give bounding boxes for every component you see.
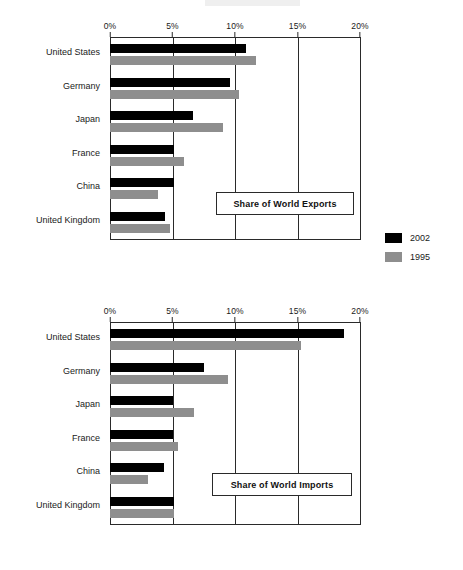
bar-exports-2002-4 [110,178,174,187]
category-labels-exports: United StatesGermanyJapanFranceChinaUnit… [0,38,106,239]
bar-imports-1995-4 [110,475,148,484]
category-label-exports-0: United States [46,47,100,57]
chart-title-imports: Share of World Imports [212,473,352,496]
bar-exports-1995-3 [110,157,184,166]
x-tick-imports-4: 20% [351,307,368,322]
category-label-exports-4: China [76,181,100,191]
bar-imports-1995-5 [110,509,174,518]
bar-imports-1995-1 [110,375,228,384]
bar-imports-1995-3 [110,442,178,451]
bar-exports-1995-5 [110,224,170,233]
x-tick-label: 0% [104,22,117,31]
x-tick-exports-0: 0% [104,22,117,37]
category-label-imports-5: United Kingdom [36,500,100,510]
legend-swatch-1995 [385,252,402,262]
chart-exports: 0%5%10%15%20% United StatesGermanyJapanF… [0,0,463,285]
x-tick-label: 20% [351,307,368,316]
category-label-exports-2: Japan [75,114,100,124]
x-axis-ticks-exports: 0%5%10%15%20% [110,22,362,38]
category-label-imports-4: China [76,466,100,476]
x-tick-imports-1: 5% [166,307,179,322]
bar-exports-2002-2 [110,111,193,120]
bar-imports-2002-3 [110,430,173,439]
category-label-exports-5: United Kingdom [36,215,100,225]
bar-group-imports-0 [110,323,360,357]
bar-exports-2002-5 [110,212,165,221]
bar-imports-2002-0 [110,329,344,338]
legend-swatch-2002 [385,233,402,243]
bar-exports-1995-0 [110,56,256,65]
legend-exports: 20021995 [385,228,455,266]
chart-imports: 0%5%10%15%20% United StatesGermanyJapanF… [0,285,463,570]
bar-group-imports-2 [110,390,360,424]
bar-exports-2002-0 [110,44,246,53]
x-axis-ticks-imports: 0%5%10%15%20% [110,307,362,323]
legend-item-exports-2002: 2002 [385,228,455,247]
bar-group-imports-1 [110,357,360,391]
bar-group-imports-3 [110,424,360,458]
bar-group-exports-3 [110,139,360,173]
x-tick-exports-4: 20% [351,22,368,37]
bar-group-exports-2 [110,105,360,139]
category-label-imports-0: United States [46,332,100,342]
bar-imports-1995-0 [110,341,301,350]
x-tick-label: 20% [351,22,368,31]
category-label-imports-3: France [72,433,100,443]
x-tick-imports-0: 0% [104,307,117,322]
x-tick-label: 15% [289,22,306,31]
bar-exports-1995-4 [110,190,158,199]
x-tick-exports-3: 15% [289,22,306,37]
bar-exports-2002-3 [110,145,174,154]
x-tick-label: 0% [104,307,117,316]
bar-group-exports-1 [110,72,360,106]
category-labels-imports: United StatesGermanyJapanFranceChinaUnit… [0,323,106,524]
bar-exports-2002-1 [110,78,230,87]
legend-label-2002: 2002 [410,233,430,243]
bar-imports-2002-4 [110,463,164,472]
x-tick-imports-2: 10% [226,307,243,322]
x-tick-exports-2: 10% [226,22,243,37]
legend-label-1995: 1995 [410,252,430,262]
bar-exports-1995-2 [110,123,223,132]
x-tick-label: 5% [166,22,179,31]
x-tick-label: 5% [166,307,179,316]
chart-title-exports: Share of World Exports [216,192,354,215]
bar-imports-1995-2 [110,408,194,417]
x-tick-label: 10% [226,307,243,316]
bar-exports-1995-1 [110,90,239,99]
bar-imports-2002-1 [110,363,204,372]
x-tick-label: 15% [289,307,306,316]
bar-group-exports-0 [110,38,360,72]
bar-imports-2002-2 [110,396,173,405]
legend-item-exports-1995: 1995 [385,247,455,266]
category-label-exports-3: France [72,148,100,158]
category-label-exports-1: Germany [63,81,100,91]
x-tick-label: 10% [226,22,243,31]
x-tick-imports-3: 15% [289,307,306,322]
bar-imports-2002-5 [110,497,174,506]
x-tick-exports-1: 5% [166,22,179,37]
category-label-imports-1: Germany [63,366,100,376]
category-label-imports-2: Japan [75,399,100,409]
